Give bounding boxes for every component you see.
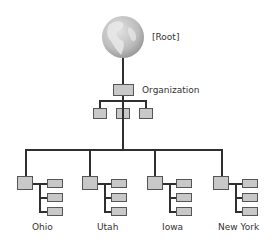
- leaf-node[interactable]: [176, 179, 192, 188]
- branch-label: New York: [218, 222, 259, 232]
- organization-label: Organization: [142, 85, 200, 95]
- leaf-node[interactable]: [242, 193, 258, 202]
- connector-line: [221, 149, 223, 176]
- branch-label: Iowa: [162, 222, 183, 232]
- leaf-node[interactable]: [111, 207, 127, 216]
- connector-line: [104, 211, 111, 213]
- connector-line: [25, 149, 223, 151]
- leaf-node[interactable]: [47, 207, 63, 216]
- connector-line: [235, 211, 242, 213]
- leaf-node[interactable]: [111, 193, 127, 202]
- leaf-node[interactable]: [47, 193, 63, 202]
- connector-line: [145, 100, 147, 108]
- connector-line: [99, 100, 101, 108]
- branch-node[interactable]: [147, 176, 163, 190]
- connector-line: [104, 197, 111, 199]
- connector-line: [169, 197, 176, 199]
- branch-node[interactable]: [82, 176, 98, 190]
- leaf-node[interactable]: [111, 179, 127, 188]
- connector-line: [39, 211, 47, 213]
- branch-label: Utah: [97, 222, 118, 232]
- leaf-node[interactable]: [47, 179, 63, 188]
- connector-line: [154, 149, 156, 176]
- branch-label: Ohio: [32, 222, 53, 232]
- organization-child-node[interactable]: [139, 108, 153, 119]
- branch-node[interactable]: [17, 176, 33, 190]
- connector-line: [39, 197, 47, 199]
- leaf-node[interactable]: [176, 207, 192, 216]
- connector-line: [89, 149, 91, 176]
- connector-line: [122, 58, 124, 85]
- leaf-node[interactable]: [242, 207, 258, 216]
- org-hierarchy-diagram: [Root] Organization Ohio Utah: [0, 0, 272, 242]
- root-label: [Root]: [152, 32, 179, 42]
- leaf-node[interactable]: [176, 193, 192, 202]
- organization-child-node[interactable]: [93, 108, 107, 119]
- connector-line: [169, 211, 176, 213]
- connector-line: [25, 149, 27, 176]
- branch-node[interactable]: [213, 176, 229, 190]
- globe-icon: [101, 15, 145, 59]
- organization-node[interactable]: [113, 84, 134, 96]
- connector-line: [235, 197, 242, 199]
- connector-line: [122, 96, 124, 151]
- leaf-node[interactable]: [242, 179, 258, 188]
